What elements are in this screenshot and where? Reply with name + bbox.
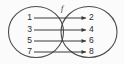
arrowhead-icon xyxy=(82,50,87,54)
domain-element-7: 7 xyxy=(27,46,32,56)
diagram-canvas: f 1 3 5 7 2 4 6 8 xyxy=(0,0,124,64)
codomain-element-6: 6 xyxy=(89,35,94,45)
domain-element-1: 1 xyxy=(27,12,32,22)
function-label: f xyxy=(61,4,65,13)
mapping-arrow-4 xyxy=(34,50,86,54)
domain-set-outline xyxy=(9,7,64,58)
arrowhead-icon xyxy=(82,39,87,43)
mapping-diagram-figure: f 1 3 5 7 2 4 6 8 xyxy=(0,0,124,64)
codomain-element-4: 4 xyxy=(89,24,94,34)
arrowhead-icon xyxy=(82,28,87,32)
arrowhead-icon xyxy=(82,16,87,20)
mapping-arrow-3 xyxy=(34,39,86,43)
domain-element-5: 5 xyxy=(27,35,32,45)
mapping-arrow-2 xyxy=(34,28,86,32)
codomain-element-2: 2 xyxy=(89,12,94,22)
codomain-element-8: 8 xyxy=(89,46,94,56)
domain-element-3: 3 xyxy=(27,24,32,34)
